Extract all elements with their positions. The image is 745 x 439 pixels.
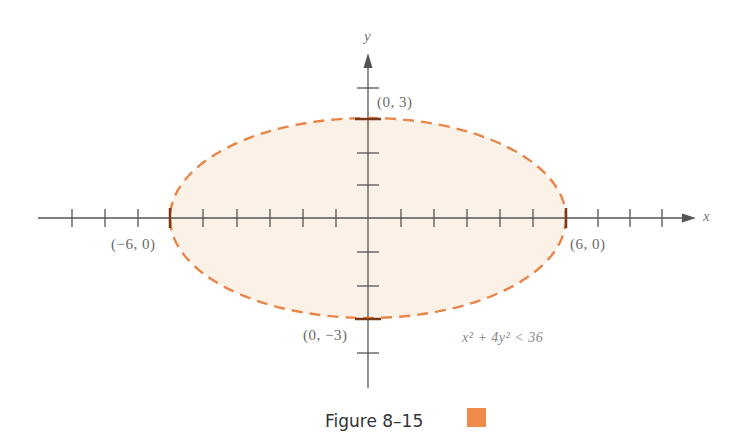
- point-label-bottom: (0, −3): [303, 327, 347, 344]
- x-axis-label: x: [703, 208, 710, 225]
- point-label-top: (0, 3): [377, 94, 413, 111]
- point-label-right: (6, 0): [570, 236, 606, 253]
- point-label-left: (−6, 0): [111, 236, 155, 253]
- y-axis-arrow-icon: [364, 53, 373, 68]
- inequality-label: x² + 4y² < 36: [462, 330, 543, 346]
- ellipse-figure: [0, 0, 745, 439]
- y-axis-label: y: [364, 28, 371, 45]
- orange-square-marker: [467, 408, 486, 427]
- x-axis-arrow-icon: [682, 214, 696, 223]
- figure-caption: Figure 8–15: [325, 411, 423, 431]
